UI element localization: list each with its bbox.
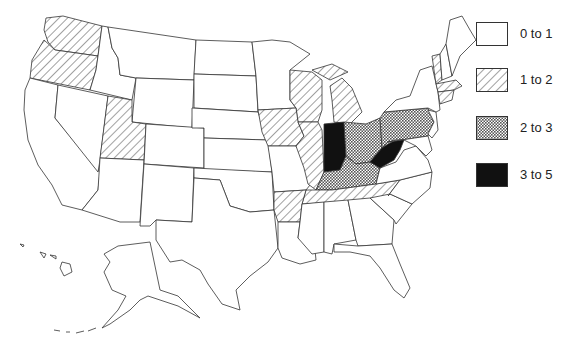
state-kansas — [204, 138, 272, 172]
state-colorado — [144, 124, 204, 168]
state-florida — [334, 244, 410, 298]
state-new-mexico — [140, 164, 194, 226]
state-maine — [446, 16, 476, 76]
legend-swatch-crosshatch — [476, 116, 508, 140]
state-south-dakota — [194, 74, 258, 112]
legend-item-1-to-2: 1 to 2 — [476, 68, 564, 94]
state-hawaii — [20, 244, 72, 276]
legend-swatch-hatch — [476, 68, 508, 92]
state-connecticut-ri — [438, 90, 454, 104]
legend-label: 0 to 1 — [520, 26, 553, 41]
legend-label: 1 to 2 — [520, 72, 553, 87]
legend-swatch-solid — [476, 163, 508, 187]
state-montana — [108, 27, 196, 80]
alaska-aleutians — [54, 328, 96, 333]
legend-label: 2 to 3 — [520, 120, 553, 135]
legend-label: 3 to 5 — [520, 167, 553, 182]
legend-item-2-to-3: 2 to 3 — [476, 116, 564, 142]
legend-item-3-to-5: 3 to 5 — [476, 163, 564, 189]
legend-swatch-blank — [476, 22, 508, 46]
legend-item-0-to-1: 0 to 1 — [476, 22, 564, 48]
state-new-york — [384, 66, 440, 112]
state-north-dakota — [194, 40, 256, 76]
state-wyoming — [132, 78, 194, 128]
